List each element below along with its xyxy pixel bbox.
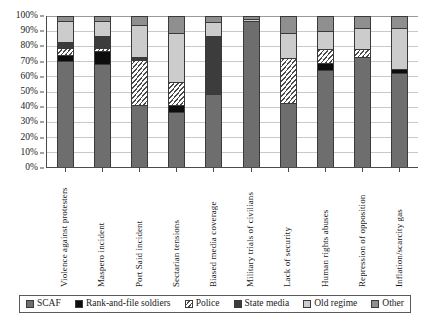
- bar-segment[interactable]: [95, 65, 110, 167]
- y-tick-mark: [40, 107, 44, 108]
- stacked-bar[interactable]: [280, 16, 297, 167]
- y-tick-mark: [40, 92, 44, 93]
- bar-segment[interactable]: [355, 17, 370, 29]
- y-tick-mark: [40, 61, 44, 62]
- stacked-bar[interactable]: [317, 16, 334, 167]
- legend-label: State media: [245, 299, 290, 309]
- bar-segment[interactable]: [355, 50, 370, 58]
- bar-segment[interactable]: [58, 62, 73, 167]
- bar-segment[interactable]: [392, 17, 407, 29]
- legend-label: Old regime: [314, 299, 357, 309]
- y-tick-mark: [40, 137, 44, 138]
- stacked-bar[interactable]: [131, 16, 148, 167]
- bar-segment[interactable]: [318, 32, 333, 50]
- bar-segment[interactable]: [132, 26, 147, 58]
- x-tick-label: Violence against protesters: [60, 172, 69, 287]
- bar-segment[interactable]: [206, 23, 221, 37]
- stacked-bar[interactable]: [354, 16, 371, 167]
- y-tick-label: 90%: [21, 26, 38, 36]
- bar-segment[interactable]: [95, 37, 110, 49]
- x-tick-label: Inflation/scarcity gas: [395, 172, 404, 287]
- bar-segment[interactable]: [58, 17, 73, 22]
- y-tick-label: 40%: [21, 102, 38, 112]
- bar-segment[interactable]: [392, 29, 407, 70]
- bar-segment[interactable]: [281, 59, 296, 104]
- bar-segment[interactable]: [244, 20, 259, 22]
- y-tick-label: 60%: [21, 72, 38, 82]
- bar-column[interactable]: [307, 16, 344, 167]
- bar-column[interactable]: [232, 16, 269, 167]
- stacked-bar[interactable]: [243, 16, 260, 167]
- bar-segment[interactable]: [206, 17, 221, 23]
- bar-segment[interactable]: [206, 37, 221, 96]
- bar-segment[interactable]: [355, 29, 370, 50]
- bar-segment[interactable]: [318, 17, 333, 32]
- x-tick-label: Military trials of civilians: [246, 172, 255, 287]
- x-tick-label: Maspero incident: [97, 172, 106, 287]
- legend-swatch-icon: [371, 300, 379, 308]
- x-label-cell: Maspero incident: [83, 169, 120, 287]
- bar-segment[interactable]: [244, 22, 259, 168]
- bar-segment[interactable]: [132, 106, 147, 168]
- stacked-bar[interactable]: [168, 16, 185, 167]
- bar-segment[interactable]: [95, 49, 110, 52]
- legend-item[interactable]: Rank-and-file soldiers: [75, 299, 171, 309]
- y-tick-label: 70%: [21, 57, 38, 67]
- bar-column[interactable]: [270, 16, 307, 167]
- bar-segment[interactable]: [95, 52, 110, 66]
- bar-segment[interactable]: [244, 17, 259, 20]
- bar-segment[interactable]: [169, 17, 184, 34]
- bar-segment[interactable]: [169, 34, 184, 84]
- bar-segment[interactable]: [169, 83, 184, 106]
- bar-column[interactable]: [195, 16, 232, 167]
- stacked-bar[interactable]: [391, 16, 408, 167]
- bar-segment[interactable]: [58, 22, 73, 43]
- stacked-bar[interactable]: [94, 16, 111, 167]
- legend-item[interactable]: State media: [234, 299, 290, 309]
- bar-segment[interactable]: [95, 17, 110, 22]
- legend-item[interactable]: Police: [185, 299, 220, 309]
- bar-segment[interactable]: [132, 61, 147, 106]
- x-tick-label: Port Said incident: [135, 172, 144, 287]
- y-tick-mark: [40, 168, 44, 169]
- legend-item[interactable]: SCAF: [26, 299, 61, 309]
- y-tick-label: 30%: [21, 118, 38, 128]
- stacked-bar[interactable]: [57, 16, 74, 167]
- legend-item[interactable]: Other: [371, 299, 404, 309]
- bar-column[interactable]: [381, 16, 418, 167]
- x-label-cell: Sectarian tensions: [158, 169, 195, 287]
- bar-segment[interactable]: [318, 50, 333, 64]
- bar-column[interactable]: [84, 16, 121, 167]
- bar-segment[interactable]: [355, 58, 370, 168]
- bar-segment[interactable]: [58, 43, 73, 49]
- bar-segment[interactable]: [318, 71, 333, 167]
- x-tick-label: Biased media coverage: [209, 172, 218, 287]
- bar-segment[interactable]: [281, 104, 296, 167]
- bar-segment[interactable]: [206, 95, 221, 167]
- bar-segment[interactable]: [281, 34, 296, 60]
- bar-segment[interactable]: [58, 56, 73, 62]
- x-tick-label: Sectarian tensions: [172, 172, 181, 287]
- bar-segment[interactable]: [132, 17, 147, 26]
- bar-segment[interactable]: [392, 70, 407, 75]
- bar-segment[interactable]: [58, 49, 73, 57]
- stacked-bar[interactable]: [205, 16, 222, 167]
- legend-swatch-icon: [75, 300, 83, 308]
- legend-item[interactable]: Old regime: [303, 299, 357, 309]
- x-tick-label: Repression of opposition: [358, 172, 367, 287]
- bar-segment[interactable]: [318, 64, 333, 72]
- bar-column[interactable]: [344, 16, 381, 167]
- bar-segment[interactable]: [132, 58, 147, 61]
- legend-swatch-icon: [234, 300, 242, 308]
- bar-column[interactable]: [47, 16, 84, 167]
- bar-segment[interactable]: [95, 22, 110, 37]
- x-label-cell: Human rights abuses: [306, 169, 343, 287]
- bar-column[interactable]: [121, 16, 158, 167]
- bar-segment[interactable]: [169, 113, 184, 167]
- x-tick-label: Human rights abuses: [321, 172, 330, 287]
- y-tick-label: 100%: [16, 11, 38, 21]
- bar-segment[interactable]: [392, 74, 407, 167]
- bar-segment[interactable]: [169, 106, 184, 114]
- bar-column[interactable]: [158, 16, 195, 167]
- bar-segment[interactable]: [281, 17, 296, 34]
